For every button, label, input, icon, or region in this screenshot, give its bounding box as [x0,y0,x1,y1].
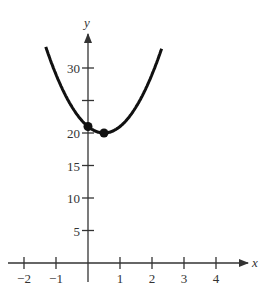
x-tick-label: −1 [49,271,63,286]
x-tick-label: −2 [17,271,31,286]
x-tick-label: 3 [181,271,188,286]
ticks [24,68,216,269]
y-tick-label: 20 [67,126,80,141]
x-axis-label: x [251,255,258,270]
y-tick-label: 30 [67,61,80,76]
x-tick-label: 1 [117,271,124,286]
x-tick-label: 4 [213,271,220,286]
y-tick-label: 5 [74,224,81,239]
chart: −2−11234510152030 x y [0,0,264,300]
y-axis-label: y [82,15,90,30]
data-point [84,122,93,131]
y-tick-label: 10 [67,191,80,206]
x-tick-label: 2 [149,271,156,286]
y-tick-label: 15 [67,159,80,174]
axes [8,34,248,282]
tick-labels: −2−11234510152030 [17,61,220,286]
parabola-curve [46,47,162,133]
data-point [100,129,109,138]
